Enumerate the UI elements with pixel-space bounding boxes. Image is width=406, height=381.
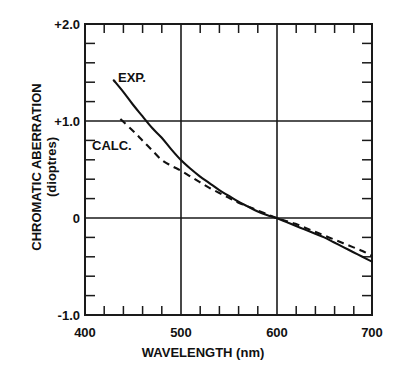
xtick-label-400: 400 (55, 325, 115, 340)
xtick-label-500: 500 (151, 325, 211, 340)
y-axis-title-units: (dioptres) (44, 42, 59, 292)
plot-frame (85, 24, 372, 315)
annotation-calc: CALC. (92, 138, 132, 153)
x-axis-title: WAVELENGTH (nm) (0, 345, 406, 360)
annotation-exp: EXP. (118, 70, 146, 85)
y-axis-title-main: CHROMATIC ABERRATION (29, 83, 44, 250)
plot-area-svg (0, 0, 406, 381)
y-axis-title: CHROMATIC ABERRATION (dioptres) (29, 42, 59, 292)
chromatic-aberration-chart: +2.0 +1.0 0 -1.0 400 500 600 700 EXP. CA… (0, 0, 406, 381)
xtick-label-700: 700 (342, 325, 402, 340)
ytick-label-2: +2.0 (36, 17, 80, 32)
ytick-label-minus1: -1.0 (36, 308, 80, 323)
xtick-label-600: 600 (247, 325, 307, 340)
